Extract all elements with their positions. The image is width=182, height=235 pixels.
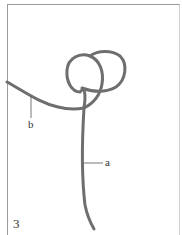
rope-end-b <box>7 82 84 109</box>
step-number: 3 <box>13 216 20 232</box>
rope-loop-left <box>67 55 103 108</box>
rope-end-a <box>83 108 94 229</box>
rope-loop-right <box>82 52 125 92</box>
label-a: a <box>105 157 110 168</box>
label-b: b <box>28 119 34 130</box>
